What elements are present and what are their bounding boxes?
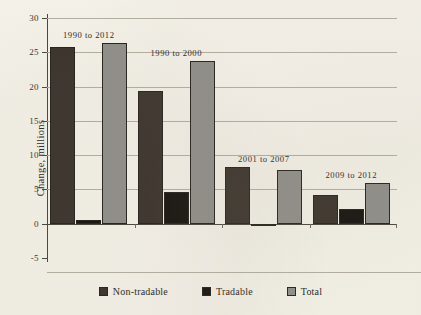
bar-group <box>47 18 397 258</box>
legend-item: Tradable <box>202 286 253 297</box>
bar <box>313 195 338 224</box>
x-tick <box>135 224 136 228</box>
y-tick--5 <box>42 258 47 259</box>
chart-figure: Change, millions -5051015202530 1990 to … <box>0 0 421 315</box>
y-tick-label-25: 25 <box>29 47 39 57</box>
bar <box>339 209 364 223</box>
legend-swatch <box>287 287 296 296</box>
legend-item: Total <box>287 286 322 297</box>
legend-label: Non-tradable <box>113 286 168 297</box>
y-tick-label-10: 10 <box>29 150 39 160</box>
y-tick-label-30: 30 <box>29 13 39 23</box>
legend-swatch <box>202 287 211 296</box>
y-tick-label-20: 20 <box>29 82 39 92</box>
y-tick-label-5: 5 <box>34 184 39 194</box>
y-tick-label-15: 15 <box>29 116 39 126</box>
x-tick <box>396 224 397 228</box>
group-label: 2009 to 2012 <box>326 170 377 180</box>
legend-label: Total <box>301 286 322 297</box>
legend-label: Tradable <box>216 286 253 297</box>
legend-swatch <box>99 287 108 296</box>
axis-baseline-minus5 <box>47 272 421 273</box>
bar <box>365 183 390 224</box>
x-tick <box>310 224 311 228</box>
y-tick-label-0: 0 <box>34 219 39 229</box>
legend-item: Non-tradable <box>99 286 168 297</box>
chart-legend: Non-tradableTradableTotal <box>0 286 421 297</box>
x-tick <box>222 224 223 228</box>
y-tick-label--5: -5 <box>31 253 39 263</box>
plot-area: -5051015202530 1990 to 20121990 to 20002… <box>47 18 397 258</box>
